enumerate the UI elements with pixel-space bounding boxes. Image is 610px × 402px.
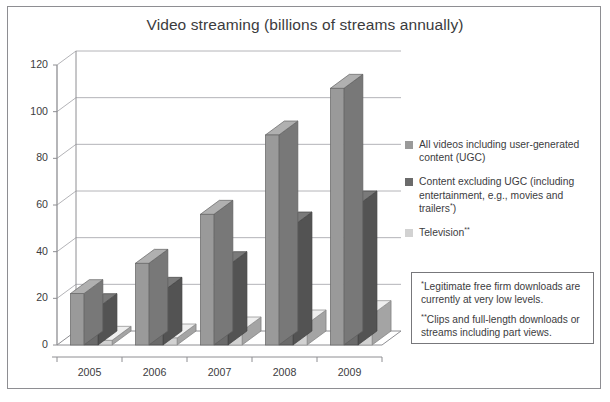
x-axis-ticks: [52, 357, 382, 362]
legend-swatch-icon: [405, 141, 413, 149]
bar: [135, 249, 168, 345]
x-axis-tick-label: 2009: [327, 366, 373, 378]
bar: [330, 74, 363, 345]
bar-series: [70, 74, 391, 345]
legend-item[interactable]: All videos including user-generatedconte…: [405, 138, 603, 164]
x-axis-tick-label: 2005: [67, 366, 113, 378]
chart-legend: All videos including user-generatedconte…: [405, 138, 603, 250]
x-axis-tick-label: 2007: [197, 366, 243, 378]
y-axis-tick-label: 80: [22, 151, 48, 163]
footnote-text: **Clips and full-length downloads or str…: [421, 313, 585, 340]
bar: [200, 200, 233, 345]
x-axis-tick-label: 2008: [262, 366, 308, 378]
y-axis-tick-label: 60: [22, 198, 48, 210]
bar-front-face: [135, 263, 149, 345]
legend-swatch-icon: [405, 229, 413, 237]
chart-figure: Video streaming (billions of streams ann…: [0, 0, 610, 402]
legend-item-label: All videos including user-generatedconte…: [419, 138, 579, 164]
y-axis-tick-label: 40: [22, 245, 48, 257]
bar: [265, 121, 298, 345]
bar-front-face: [330, 88, 344, 345]
bar-side-face: [279, 121, 298, 345]
bar-side-face: [149, 249, 168, 345]
footnote-box: *Legitimate free firm downloads are curr…: [411, 272, 594, 344]
legend-item[interactable]: Television**: [405, 226, 603, 239]
bar-front-face: [200, 214, 214, 345]
y-axis-tick-label: 120: [22, 58, 48, 70]
y-axis-tick-label: 100: [22, 105, 48, 117]
y-axis-tick-label: 0: [22, 338, 48, 350]
legend-item-label: Television**: [419, 226, 470, 239]
gridline: [57, 51, 401, 65]
bar-front-face: [70, 294, 84, 345]
bar-side-face: [214, 200, 233, 345]
bar-front-face: [265, 135, 279, 345]
legend-item[interactable]: Content excluding UGC (includingentertai…: [405, 175, 603, 215]
legend-item-label: Content excluding UGC (includingentertai…: [419, 175, 574, 215]
bar-side-face: [344, 74, 363, 345]
y-axis-tick-label: 20: [22, 291, 48, 303]
legend-swatch-icon: [405, 178, 413, 186]
footnote-text: *Legitimate free firm downloads are curr…: [421, 280, 585, 307]
x-axis-tick-label: 2006: [132, 366, 178, 378]
